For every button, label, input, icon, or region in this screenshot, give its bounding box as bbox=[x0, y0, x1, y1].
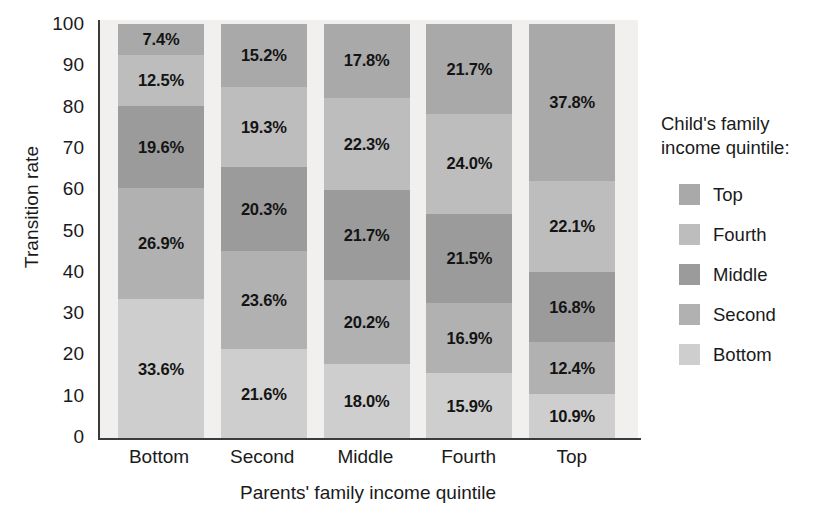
segment-value-label: 12.5% bbox=[138, 72, 184, 89]
segment-value-label: 24.0% bbox=[446, 155, 492, 172]
y-tick-label-20: 20 bbox=[30, 344, 84, 363]
legend-label-second: Second bbox=[713, 306, 776, 325]
bar-segment-top-fourth[interactable]: 22.1% bbox=[529, 181, 615, 273]
bar-segment-bottom-second[interactable]: 26.9% bbox=[118, 188, 204, 300]
legend-item-top[interactable]: Top bbox=[661, 175, 836, 215]
segment-value-label: 22.3% bbox=[344, 136, 390, 153]
y-tick-label-40: 40 bbox=[30, 261, 84, 280]
bar-segment-fourth-middle[interactable]: 21.5% bbox=[426, 214, 512, 303]
segment-value-label: 21.6% bbox=[241, 386, 287, 403]
x-tick-label-bottom: Bottom bbox=[116, 446, 219, 474]
bar-segment-top-second[interactable]: 12.4% bbox=[529, 342, 615, 393]
segment-value-label: 19.3% bbox=[241, 119, 287, 136]
bar-segment-top-middle[interactable]: 16.8% bbox=[529, 272, 615, 342]
x-tick-label-second: Second bbox=[219, 446, 322, 474]
segment-value-label: 15.2% bbox=[241, 47, 287, 64]
legend-label-top: Top bbox=[713, 186, 743, 205]
legend-item-middle[interactable]: Middle bbox=[661, 255, 836, 295]
legend-item-second[interactable]: Second bbox=[661, 295, 836, 335]
bar-segment-second-middle[interactable]: 20.3% bbox=[221, 167, 307, 251]
legend-label-middle: Middle bbox=[713, 266, 768, 285]
bar-segment-fourth-second[interactable]: 16.9% bbox=[426, 303, 512, 373]
y-tick-label-60: 60 bbox=[30, 179, 84, 198]
plot-area: 7.4%12.5%19.6%26.9%33.6%15.2%19.3%20.3%2… bbox=[98, 20, 638, 439]
legend-swatch-bottom bbox=[679, 344, 700, 365]
bar-slot-middle: 17.8%22.3%21.7%20.2%18.0% bbox=[324, 20, 427, 439]
legend-label-fourth: Fourth bbox=[713, 226, 766, 245]
bar-segment-middle-second[interactable]: 20.2% bbox=[324, 280, 410, 364]
legend-swatch-middle bbox=[679, 264, 700, 285]
bar-segment-second-bottom[interactable]: 21.6% bbox=[221, 349, 307, 439]
segment-value-label: 7.4% bbox=[143, 31, 180, 48]
bar-slot-second: 15.2%19.3%20.3%23.6%21.6% bbox=[221, 20, 324, 439]
bar-segment-top-top[interactable]: 37.8% bbox=[529, 24, 615, 181]
x-tick-label-top: Top bbox=[529, 446, 632, 474]
bar-slot-bottom: 7.4%12.5%19.6%26.9%33.6% bbox=[118, 20, 221, 439]
y-tick-label-30: 30 bbox=[30, 303, 84, 322]
x-axis-title: Parents' family income quintile bbox=[98, 482, 638, 504]
y-tick-label-0: 0 bbox=[30, 427, 84, 446]
segment-value-label: 21.5% bbox=[446, 250, 492, 267]
bar-segment-fourth-bottom[interactable]: 15.9% bbox=[426, 373, 512, 439]
segment-value-label: 20.3% bbox=[241, 201, 287, 218]
y-tick-label-50: 50 bbox=[30, 220, 84, 239]
stacked-bar-chart-figure: Transition rate 1009080706050403020100 7… bbox=[0, 0, 838, 524]
legend-swatch-top bbox=[679, 184, 700, 205]
legend-swatch-fourth bbox=[679, 224, 700, 245]
bar-segment-bottom-fourth[interactable]: 12.5% bbox=[118, 55, 204, 107]
x-tick-label-middle: Middle bbox=[322, 446, 425, 474]
bar-bottom[interactable]: 7.4%12.5%19.6%26.9%33.6% bbox=[118, 24, 204, 439]
segment-value-label: 21.7% bbox=[446, 61, 492, 78]
segment-value-label: 21.7% bbox=[344, 227, 390, 244]
bar-segment-bottom-top[interactable]: 7.4% bbox=[118, 24, 204, 55]
bar-segment-top-bottom[interactable]: 10.9% bbox=[529, 394, 615, 439]
segment-value-label: 19.6% bbox=[138, 139, 184, 156]
bar-segment-second-top[interactable]: 15.2% bbox=[221, 24, 307, 87]
segment-value-label: 37.8% bbox=[549, 94, 595, 111]
y-axis-tick-labels: 1009080706050403020100 bbox=[30, 23, 84, 436]
segment-value-label: 12.4% bbox=[549, 360, 595, 377]
segment-value-label: 18.0% bbox=[344, 393, 390, 410]
segment-value-label: 26.9% bbox=[138, 235, 184, 252]
legend-items: TopFourthMiddleSecondBottom bbox=[661, 175, 836, 375]
segment-value-label: 20.2% bbox=[344, 314, 390, 331]
y-tick-label-100: 100 bbox=[30, 14, 84, 33]
segment-value-label: 33.6% bbox=[138, 361, 184, 378]
bar-second[interactable]: 15.2%19.3%20.3%23.6%21.6% bbox=[221, 24, 307, 439]
bar-segment-middle-top[interactable]: 17.8% bbox=[324, 24, 410, 98]
legend-swatch-second bbox=[679, 304, 700, 325]
bar-segment-middle-bottom[interactable]: 18.0% bbox=[324, 364, 410, 439]
bar-fourth[interactable]: 21.7%24.0%21.5%16.9%15.9% bbox=[426, 24, 512, 439]
bar-segment-fourth-top[interactable]: 21.7% bbox=[426, 24, 512, 114]
y-tick-label-80: 80 bbox=[30, 96, 84, 115]
bar-segment-bottom-bottom[interactable]: 33.6% bbox=[118, 299, 204, 439]
legend: Child's family income quintile: TopFourt… bbox=[661, 112, 836, 375]
segment-value-label: 10.9% bbox=[549, 408, 595, 425]
y-tick-label-90: 90 bbox=[30, 55, 84, 74]
segment-value-label: 16.8% bbox=[549, 299, 595, 316]
bar-segment-bottom-middle[interactable]: 19.6% bbox=[118, 106, 204, 187]
bar-segment-middle-fourth[interactable]: 22.3% bbox=[324, 98, 410, 191]
legend-item-fourth[interactable]: Fourth bbox=[661, 215, 836, 255]
bar-top[interactable]: 37.8%22.1%16.8%12.4%10.9% bbox=[529, 24, 615, 439]
x-axis-tick-labels: BottomSecondMiddleFourthTop bbox=[98, 446, 638, 474]
bar-group: 7.4%12.5%19.6%26.9%33.6%15.2%19.3%20.3%2… bbox=[100, 20, 638, 439]
bar-slot-fourth: 21.7%24.0%21.5%16.9%15.9% bbox=[426, 20, 529, 439]
bar-segment-fourth-fourth[interactable]: 24.0% bbox=[426, 114, 512, 214]
segment-value-label: 15.9% bbox=[446, 398, 492, 415]
x-axis-line bbox=[98, 438, 641, 440]
bar-slot-top: 37.8%22.1%16.8%12.4%10.9% bbox=[529, 20, 632, 439]
legend-item-bottom[interactable]: Bottom bbox=[661, 335, 836, 375]
bar-segment-middle-middle[interactable]: 21.7% bbox=[324, 190, 410, 280]
y-tick-label-10: 10 bbox=[30, 385, 84, 404]
y-tick-label-70: 70 bbox=[30, 137, 84, 156]
segment-value-label: 16.9% bbox=[446, 330, 492, 347]
legend-title: Child's family income quintile: bbox=[661, 112, 831, 161]
bar-segment-second-fourth[interactable]: 19.3% bbox=[221, 87, 307, 167]
bar-middle[interactable]: 17.8%22.3%21.7%20.2%18.0% bbox=[324, 24, 410, 439]
legend-label-bottom: Bottom bbox=[713, 346, 772, 365]
segment-value-label: 17.8% bbox=[344, 52, 390, 69]
bar-segment-second-second[interactable]: 23.6% bbox=[221, 251, 307, 349]
x-tick-label-fourth: Fourth bbox=[426, 446, 529, 474]
segment-value-label: 23.6% bbox=[241, 292, 287, 309]
